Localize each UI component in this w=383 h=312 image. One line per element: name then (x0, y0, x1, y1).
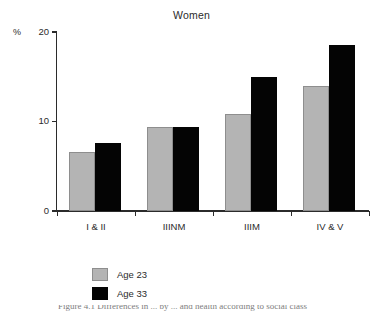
x-axis-category-label: IV & V (290, 221, 370, 232)
x-axis-category-label: I & II (56, 221, 136, 232)
plot-area (57, 32, 369, 211)
bar-age-33 (95, 143, 121, 211)
legend-swatch-dark (92, 287, 108, 300)
bar-group (135, 32, 213, 211)
bar-age-23 (147, 127, 173, 211)
x-axis-tick-mark (135, 211, 136, 216)
y-axis-tick-label: 20 (38, 26, 49, 37)
bar-group (57, 32, 135, 211)
x-axis-tick-mark (369, 211, 370, 216)
bar-age-23 (303, 86, 329, 211)
bar-age-33 (173, 127, 199, 211)
y-axis-unit-label: % (13, 27, 21, 37)
y-axis-tick-label: 0 (44, 205, 49, 216)
x-axis-tick-mark (213, 211, 214, 216)
x-axis-category-label: IIINM (134, 221, 214, 232)
figure-caption-text: Figure 4.1 Differences in ... by ... and… (58, 305, 307, 311)
legend-item: Age 33 (92, 285, 147, 301)
figure-panel: Women % 01020 I & IIIIINMIIIMIV & V Age … (0, 0, 383, 312)
bar-age-23 (225, 114, 251, 211)
legend-label: Age 23 (117, 269, 147, 280)
bar-age-33 (251, 77, 277, 211)
bar-age-23 (69, 152, 95, 211)
bar-group (291, 32, 369, 211)
bar-group (213, 32, 291, 211)
legend-swatch-light (92, 268, 108, 281)
x-axis-tick-mark (291, 211, 292, 216)
chart-title: Women (0, 9, 383, 21)
x-axis-category-label: IIIM (212, 221, 292, 232)
legend-item: Age 23 (92, 266, 147, 282)
x-axis-tick-mark (57, 211, 58, 216)
figure-caption-cropped: Figure 4.1 Differences in ... by ... and… (58, 305, 378, 312)
legend-label: Age 33 (117, 288, 147, 299)
y-axis-tick-label: 10 (38, 115, 49, 126)
bar-age-33 (329, 45, 355, 211)
legend: Age 23Age 33 (92, 266, 147, 304)
